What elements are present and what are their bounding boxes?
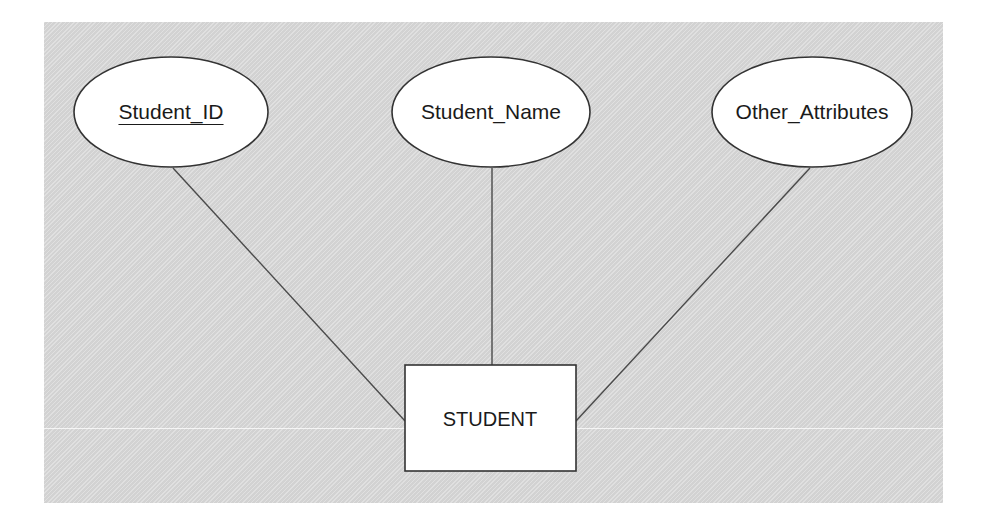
entity-label-student: STUDENT [443, 408, 537, 431]
connector-other-attributes [576, 168, 810, 421]
attribute-label-student-id: Student_ID [118, 100, 223, 124]
attribute-label-student-name: Student_Name [421, 100, 561, 124]
er-diagram-canvas: Student_ID Student_Name Other_Attributes… [0, 0, 984, 522]
diagram-shapes [0, 0, 984, 522]
attribute-label-other-attributes: Other_Attributes [736, 100, 889, 124]
connector-student-id [173, 168, 405, 421]
